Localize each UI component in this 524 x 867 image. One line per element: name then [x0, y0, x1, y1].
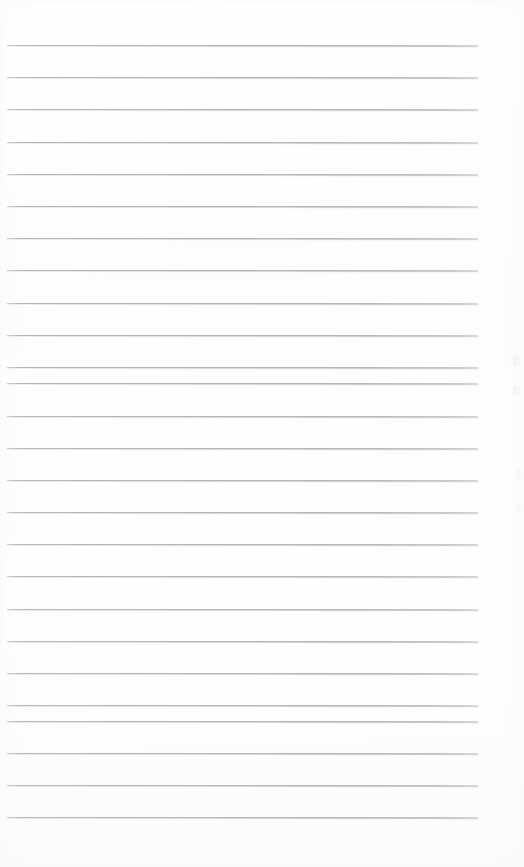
rule-line [7, 753, 478, 754]
rule-line [7, 817, 478, 818]
scan-artifact [516, 470, 521, 479]
rule-line [7, 673, 478, 674]
rule-line [7, 174, 478, 175]
rule-line [7, 576, 478, 577]
rule-line [7, 270, 478, 271]
scan-artifact [516, 505, 521, 513]
rule-line [7, 416, 478, 417]
scan-artifact [513, 355, 520, 367]
scan-artifact [513, 385, 520, 395]
rule-line [7, 785, 478, 786]
rule-line [7, 206, 478, 207]
rule-line [7, 45, 478, 46]
rule-line [7, 721, 478, 722]
rule-line [7, 641, 478, 642]
rule-line [7, 142, 478, 143]
ruled-lines-layer [0, 0, 524, 867]
rule-line [7, 238, 478, 239]
rule-line [7, 383, 478, 384]
rule-line [7, 705, 478, 706]
rule-line [7, 448, 478, 449]
rule-line [7, 303, 478, 304]
rule-line [7, 335, 478, 336]
rule-line [7, 367, 478, 368]
rule-line [7, 544, 478, 545]
rule-line [7, 77, 478, 78]
rule-line [7, 480, 478, 481]
rule-line [7, 109, 478, 110]
scanned-page [0, 0, 524, 867]
rule-line [7, 609, 478, 610]
rule-line [7, 512, 478, 513]
